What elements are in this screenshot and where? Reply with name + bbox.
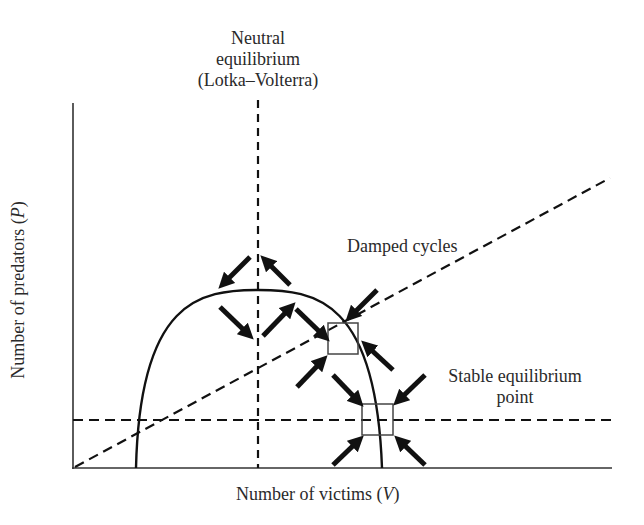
arrow-icon	[333, 441, 358, 465]
stable-label-line: point	[430, 387, 600, 408]
y-axis-label-close: )	[8, 201, 28, 207]
arrow-icon	[297, 361, 322, 387]
arrow-icon	[224, 257, 250, 283]
neutral-label-line: Neutral	[168, 28, 348, 49]
arrow-icon	[333, 375, 358, 401]
arrow-icon	[263, 308, 290, 336]
x-axis-label: Number of victims (V)	[236, 484, 399, 505]
neutral-equilibrium-label: Neutral equilibrium (Lotka–Volterra)	[168, 28, 348, 91]
arrow-icon	[266, 261, 290, 285]
neutral-label-line: (Lotka–Volterra)	[168, 70, 348, 91]
arrow-icon	[296, 309, 324, 336]
y-axis-label: Number of predators (P)	[8, 201, 29, 378]
y-axis-label-text: Number of predators (	[8, 218, 28, 378]
arrow-icon	[400, 441, 425, 465]
neutral-label-line: equilibrium	[168, 49, 348, 70]
arrow-icon	[220, 307, 248, 334]
damped-cycles-label: Damped cycles	[347, 236, 457, 257]
arrow-icon	[399, 375, 425, 400]
stable-equilibrium-label: Stable equilibrium point	[430, 366, 600, 408]
stable-label-line: Stable equilibrium	[430, 366, 600, 387]
y-axis-symbol: P	[8, 207, 28, 218]
x-axis-label-close: )	[393, 484, 399, 504]
x-axis-label-text: Number of victims (	[236, 484, 382, 504]
arrow-icon	[367, 346, 393, 370]
x-axis-symbol: V	[382, 484, 393, 504]
